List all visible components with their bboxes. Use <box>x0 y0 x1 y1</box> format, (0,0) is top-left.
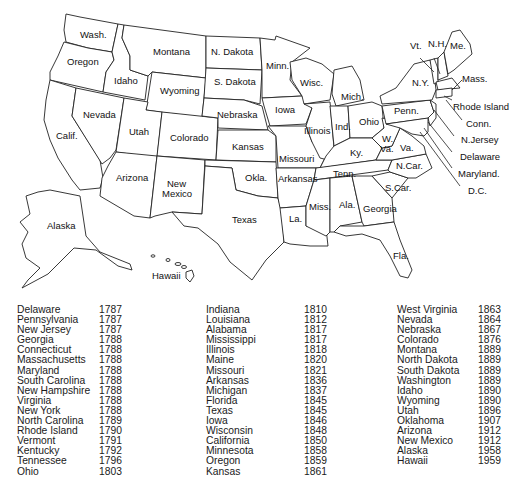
label-arkansas: Arkansas <box>278 173 318 184</box>
state-name: Oregon <box>206 456 304 466</box>
statehood-year: 1803 <box>99 467 122 477</box>
label-arizona: Arizona <box>116 172 149 183</box>
label-nebraska: Nebraska <box>217 109 258 120</box>
hawaii-island-3 <box>175 263 181 266</box>
label-ala: Ala. <box>339 199 355 210</box>
label-fla: Fla. <box>393 250 409 261</box>
label-maryland: Maryland. <box>458 168 500 179</box>
label-penn: Penn. <box>394 105 419 116</box>
state-name: Ohio <box>17 467 99 477</box>
state-name: Kansas <box>206 467 304 477</box>
statehood-row: Tennessee1796 <box>17 456 122 466</box>
state-maine <box>444 30 472 74</box>
label-nh: N.H. <box>428 38 447 49</box>
label-colorado: Colorado <box>170 132 209 143</box>
label-texas: Texas <box>232 214 257 225</box>
label-idaho: Idaho <box>114 75 138 86</box>
label-delaware: Delaware <box>460 151 500 162</box>
statehood-year: 1796 <box>99 456 122 466</box>
label-s-car: S.Car. <box>385 182 411 193</box>
hawaii-island-big <box>186 270 194 282</box>
state-name: Hawaii <box>397 456 478 466</box>
label-new-mexico-2: Mexico <box>162 188 192 199</box>
label-utah: Utah <box>129 126 149 137</box>
label-ind: Ind. <box>335 121 351 132</box>
statehood-year: 1959 <box>478 456 501 466</box>
state-connecticut-ri <box>436 88 452 98</box>
label-n-car: N.Car. <box>396 160 423 171</box>
label-dc: D.C. <box>468 185 487 196</box>
label-miss: Miss. <box>309 201 331 212</box>
label-me: Me. <box>450 40 466 51</box>
label-n-dakota: N. Dakota <box>211 46 254 57</box>
label-kansas: Kansas <box>232 141 264 152</box>
label-oregon: Oregon <box>67 56 99 67</box>
hawaii-island-4 <box>182 266 187 269</box>
label-s-dakota: S. Dakota <box>214 76 256 87</box>
statehood-row: Ohio1803 <box>17 467 122 477</box>
statehood-column-2: Indiana1810Louisiana1812Alabama1817Missi… <box>206 305 327 477</box>
label-iowa: Iowa <box>275 104 296 115</box>
hawaii-island-1 <box>151 255 155 257</box>
label-missouri: Missouri <box>279 153 314 164</box>
label-montana: Montana <box>153 46 191 57</box>
label-alaska: Alaska <box>47 220 76 231</box>
label-ky: Ky. <box>350 147 363 158</box>
label-ny: N.Y. <box>412 77 429 88</box>
label-georgia: Georgia <box>363 203 398 214</box>
label-n-jersey: N.Jersey <box>461 134 499 145</box>
label-illinois: Illinois <box>304 125 331 136</box>
label-wisc: Wisc. <box>300 77 323 88</box>
label-mass: Mass. <box>462 73 487 84</box>
label-mich: Mich. <box>341 91 364 102</box>
statehood-column-3: West Virginia1863Nevada1864Nebraska1867C… <box>397 305 501 467</box>
label-va: Va. <box>400 142 414 153</box>
label-w-va-2: Va. <box>380 143 394 154</box>
label-wyoming: Wyoming <box>160 85 200 96</box>
us-states-map: Wash. Oregon Calif. Idaho Nevada Montana… <box>0 0 513 300</box>
label-tenn: Tenn. <box>333 168 356 179</box>
statehood-row: Kansas1861 <box>206 467 327 477</box>
label-nevada: Nevada <box>83 109 116 120</box>
statehood-row: Oregon1859 <box>206 456 327 466</box>
statehood-column-1: Delaware1787Pennsylvania1787New Jersey17… <box>17 305 122 477</box>
label-okla: Okla. <box>245 172 267 183</box>
label-vt: Vt. <box>410 40 422 51</box>
label-ohio: Ohio <box>359 116 379 127</box>
hawaii-island-2 <box>166 259 170 262</box>
label-conn: Conn. <box>466 118 491 129</box>
label-rhode-island: Rhode Island <box>453 101 509 112</box>
label-calif: Calif. <box>56 130 78 141</box>
label-la: La. <box>289 213 302 224</box>
state-name: Tennessee <box>17 456 99 466</box>
statehood-table: Delaware1787Pennsylvania1787New Jersey17… <box>0 305 513 492</box>
statehood-year: 1859 <box>304 456 327 466</box>
label-minn: Minn. <box>266 60 289 71</box>
label-hawaii: Hawaii <box>152 270 181 281</box>
statehood-row: Hawaii1959 <box>397 456 501 466</box>
label-wash: Wash. <box>80 29 107 40</box>
statehood-year: 1861 <box>304 467 327 477</box>
state-arizona <box>100 152 157 218</box>
